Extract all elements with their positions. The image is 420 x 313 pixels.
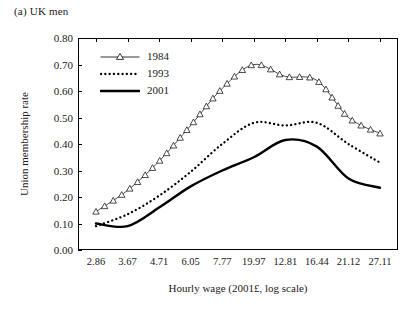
y-tick-label: 0.20: [54, 191, 73, 203]
data-marker-triangle: [119, 192, 125, 198]
y-tick-label: 0.40: [54, 138, 73, 150]
legend-item-2001: 2001: [100, 82, 169, 99]
x-tick-label: 19.97: [242, 256, 266, 267]
panel-label: (a) UK men: [14, 5, 69, 17]
plot-area: 0.000.100.200.300.400.500.600.700.80 2.8…: [78, 38, 398, 250]
y-tick-label: 0.80: [54, 32, 73, 44]
x-tick-label: 12.81: [274, 256, 298, 267]
legend: 198419932001: [100, 48, 169, 99]
x-tick-label: 3.67: [118, 256, 136, 267]
y-tick-label: 0.70: [54, 59, 73, 71]
legend-label: 2001: [147, 82, 169, 99]
data-marker-triangle: [367, 126, 373, 132]
legend-key-icon: [100, 85, 140, 97]
x-tick-label: 6.05: [181, 256, 199, 267]
x-tick-label: 27.11: [368, 256, 391, 267]
y-tick-mark: [78, 250, 82, 251]
legend-key-icon: [100, 68, 140, 80]
x-tick-label: 7.77: [213, 256, 231, 267]
x-tick-label: 4.71: [150, 256, 168, 267]
data-marker-triangle: [127, 185, 133, 191]
data-marker-triangle: [93, 208, 99, 214]
y-tick-label: 0.30: [54, 165, 73, 177]
data-marker-triangle: [101, 203, 107, 209]
x-tick-label: 16.44: [305, 256, 329, 267]
legend-item-1984: 1984: [100, 48, 169, 65]
data-marker-triangle: [110, 197, 116, 203]
data-marker-triangle: [316, 79, 322, 85]
legend-key-icon: [100, 51, 140, 63]
legend-label: 1984: [147, 48, 169, 65]
data-marker-triangle: [276, 71, 282, 77]
data-marker-triangle: [267, 66, 273, 72]
y-axis-label: Union membership rate: [18, 54, 30, 234]
y-tick-label: 0.60: [54, 85, 73, 97]
y-tick-label: 0.10: [54, 218, 73, 230]
data-marker-triangle: [335, 103, 341, 109]
data-marker-triangle: [377, 130, 383, 136]
x-axis-label: Hourly wage (2001£, log scale): [78, 282, 398, 294]
data-marker-triangle: [349, 117, 355, 123]
data-marker-triangle: [239, 67, 245, 73]
legend-label: 1993: [147, 65, 169, 82]
data-marker-triangle: [358, 122, 364, 128]
legend-item-1993: 1993: [100, 65, 169, 82]
y-tick-label: 0.50: [54, 112, 73, 124]
x-tick-label: 21.12: [337, 256, 361, 267]
series-line: [96, 122, 380, 226]
x-tick-label: 2.86: [87, 256, 105, 267]
data-marker-triangle: [329, 94, 335, 100]
series-1993: [96, 122, 380, 226]
y-tick-label: 0.00: [54, 244, 73, 256]
